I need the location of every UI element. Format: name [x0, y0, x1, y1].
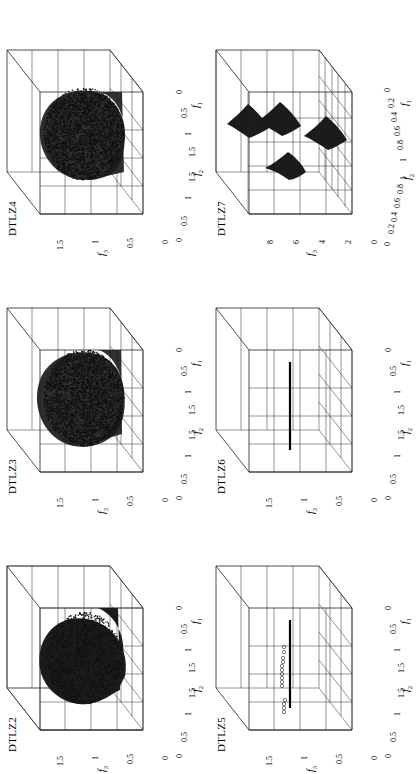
- pareto-patches-dtlz7: [227, 102, 347, 180]
- ytick-dtlz5-0: 0: [384, 754, 393, 758]
- ztick-dtlz7-2: 4: [318, 240, 327, 244]
- xtick-dtlz3-0: 0: [175, 348, 184, 352]
- outlier-markers: [280, 645, 286, 713]
- xtick-dtlz5-1: 0.5: [389, 624, 398, 634]
- plot-svg-dtlz2: [18, 548, 178, 748]
- panel-dtlz7: DTLZ7: [209, 0, 418, 258]
- plot-dtlz6: [227, 290, 377, 490]
- ztick-dtlz6-3: 1.5: [265, 498, 274, 508]
- ytick-dtlz3-1: 0.5: [180, 474, 189, 484]
- xtick-dtlz5-2: 1: [393, 648, 402, 652]
- data-points-dtlz5: [280, 620, 290, 714]
- xtick-dtlz5-0: 0: [384, 606, 393, 610]
- zaxis-label-dtlz6: f3: [305, 508, 318, 514]
- xtick-dtlz2-3: 1.5: [188, 663, 197, 673]
- xtick-dtlz6-0: 0: [384, 348, 393, 352]
- xtick-dtlz7-0: 0: [383, 88, 392, 92]
- ztick-dtlz3-3: 1.5: [56, 498, 65, 508]
- ztick-dtlz4-2: 1: [91, 240, 100, 244]
- xtick-dtlz4-3: 1.5: [188, 147, 197, 157]
- panel-title-dtlz5: DTLZ5: [215, 717, 227, 752]
- plot-svg-dtlz7: [227, 32, 387, 232]
- ytick-dtlz7-3: 0.6: [393, 198, 402, 208]
- ytick-dtlz5-2: 1: [393, 712, 402, 716]
- ytick-dtlz3-2: 1: [184, 454, 193, 458]
- ytick-dtlz6-3: 1.5: [397, 430, 406, 440]
- ztick-dtlz4-1: 0.5: [126, 238, 135, 248]
- xtick-dtlz4-2: 1: [184, 132, 193, 136]
- xaxis-label-dtlz4: f1: [190, 102, 203, 108]
- ytick-dtlz4-3: 1.5: [188, 172, 197, 182]
- xaxis-label-dtlz5: f1: [399, 618, 412, 624]
- ztick-dtlz6-2: 1: [300, 498, 309, 502]
- panel-dtlz2: DTLZ2: [0, 516, 209, 774]
- ztick-dtlz7-0: 0: [370, 240, 379, 244]
- panel-title-dtlz2: DTLZ2: [6, 717, 18, 752]
- dtlz-pareto-front-figure: DTLZ2: [0, 0, 418, 774]
- ztick-dtlz3-0: 0: [161, 498, 170, 502]
- ztick-dtlz3-1: 0.5: [126, 496, 135, 506]
- ztick-dtlz2-1: 0.5: [126, 754, 135, 764]
- xtick-dtlz2-2: 1: [184, 648, 193, 652]
- ytick-dtlz6-1: 0.5: [389, 474, 398, 484]
- xaxis-label-dtlz7: f1: [399, 100, 412, 106]
- xtick-dtlz6-1: 0.5: [389, 366, 398, 376]
- ytick-dtlz3-0: 0: [175, 496, 184, 500]
- zaxis-label-dtlz5: f3: [305, 766, 318, 772]
- ztick-dtlz6-0: 0: [370, 498, 379, 502]
- ytick-dtlz4-0: 0: [175, 238, 184, 242]
- xtick-dtlz3-1: 0.5: [180, 366, 189, 376]
- xtick-dtlz5-3: 1.5: [397, 663, 406, 673]
- grid-lines: [216, 308, 352, 472]
- xtick-dtlz6-3: 1.5: [397, 405, 406, 415]
- ztick-dtlz2-0: 0: [161, 756, 170, 760]
- ytick-dtlz7-2: 0.4: [390, 212, 399, 222]
- xtick-dtlz2-0: 0: [175, 606, 184, 610]
- panel-title-dtlz4: DTLZ4: [6, 201, 18, 236]
- ztick-dtlz2-2: 1: [91, 756, 100, 760]
- ytick-dtlz2-0: 0: [175, 754, 184, 758]
- ytick-dtlz7-4: 0.8: [396, 184, 405, 194]
- ytick-dtlz2-2: 1: [184, 712, 193, 716]
- plot-svg-dtlz3: [18, 290, 178, 490]
- ytick-dtlz5-1: 0.5: [389, 732, 398, 742]
- panel-title-dtlz3: DTLZ3: [6, 459, 18, 494]
- plot-dtlz4: [18, 32, 168, 232]
- plot-svg-dtlz6: [227, 290, 387, 490]
- ytick-dtlz4-2: 1: [184, 196, 193, 200]
- ytick-dtlz3-3: 1.5: [188, 430, 197, 440]
- ytick-dtlz4-1: 0.5: [180, 216, 189, 226]
- panel-dtlz3: DTLZ3: [0, 258, 209, 516]
- panel-title-dtlz7: DTLZ7: [215, 201, 227, 236]
- ytick-dtlz5-3: 1.5: [397, 688, 406, 698]
- figure-page: DTLZ2: [0, 0, 418, 774]
- ytick-dtlz7-5: 1: [399, 176, 408, 180]
- ytick-dtlz2-1: 0.5: [180, 732, 189, 742]
- ztick-dtlz5-0: 0: [370, 756, 379, 760]
- ztick-dtlz2-3: 1.5: [56, 756, 65, 766]
- xtick-dtlz7-2: 0.4: [390, 112, 399, 122]
- ytick-dtlz7-1: 0.2: [387, 224, 396, 234]
- xtick-dtlz4-1: 0.5: [180, 108, 189, 118]
- xtick-dtlz6-2: 1: [393, 390, 402, 394]
- panel-title-dtlz6: DTLZ6: [215, 459, 227, 494]
- ztick-dtlz6-1: 0.5: [335, 496, 344, 506]
- xtick-dtlz7-4: 0.8: [396, 140, 405, 150]
- xtick-dtlz3-3: 1.5: [188, 405, 197, 415]
- xaxis-label-dtlz3: f1: [190, 360, 203, 366]
- xtick-dtlz7-5: 1: [399, 158, 408, 162]
- plot-dtlz2: [18, 548, 168, 748]
- xtick-dtlz3-2: 1: [184, 390, 193, 394]
- xaxis-label-dtlz6: f1: [399, 360, 412, 366]
- ztick-dtlz4-3: 1.5: [56, 240, 65, 250]
- panel-dtlz6: DTLZ6: [209, 258, 418, 516]
- ytick-dtlz7-0: 0: [383, 242, 392, 246]
- xaxis-label-dtlz2: f1: [190, 618, 203, 624]
- ztick-dtlz5-3: 1.5: [265, 756, 274, 766]
- ztick-dtlz7-3: 6: [292, 240, 301, 244]
- xtick-dtlz7-1: 0.2: [387, 98, 396, 108]
- ytick-dtlz2-3: 1.5: [188, 688, 197, 698]
- plot-dtlz5: [227, 548, 377, 748]
- ztick-dtlz5-2: 1: [300, 756, 309, 760]
- plot-dtlz7: [227, 32, 377, 232]
